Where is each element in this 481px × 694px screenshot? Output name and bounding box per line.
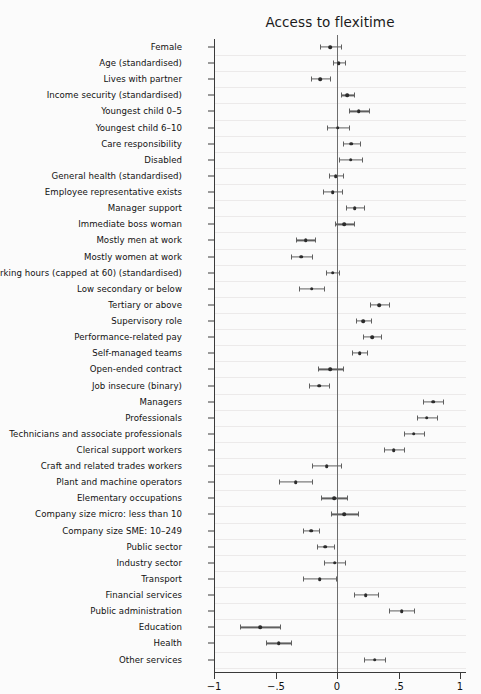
confidence-interval-cap [356,319,357,324]
confidence-interval-cap [385,657,386,662]
point-estimate-marker [309,529,313,533]
x-axis-tick [460,673,461,679]
grid-line [214,474,466,475]
grid-line [214,458,466,459]
confidence-interval-cap [363,335,364,340]
category-label: Financial services [105,590,182,600]
category-label: Age (standardised) [99,58,182,68]
confidence-interval-cap [317,544,318,549]
confidence-interval-cap [352,351,353,356]
category-label: Education [139,622,182,632]
confidence-interval-cap [319,528,320,533]
grid-line [214,329,466,330]
x-axis-tick [214,673,215,679]
confidence-interval-cap [341,93,342,98]
grid-line [214,490,466,491]
category-label: Employee representative exists [45,187,182,197]
y-axis-tick [208,63,214,64]
category-label: Public administration [90,606,182,616]
grid-line [214,249,466,250]
point-estimate-marker [362,319,366,323]
confidence-interval-cap [312,480,313,485]
confidence-interval-cap [437,415,438,420]
y-axis-tick [208,288,214,289]
grid-line [214,506,466,507]
confidence-interval-cap [345,560,346,565]
point-estimate-marker [304,239,308,243]
category-label: Self-managed teams [92,348,182,358]
point-estimate-marker [328,368,332,372]
point-estimate-marker [400,609,404,613]
category-label: Disabled [144,155,182,165]
confidence-interval-cap [345,61,346,66]
point-estimate-marker [317,384,321,388]
point-estimate-marker [334,174,338,178]
category-label: Company size micro: less than 10 [35,509,182,519]
grid-line [214,55,466,56]
confidence-interval-cap [334,544,335,549]
confidence-interval-cap [404,431,405,436]
confidence-interval-cap [240,625,241,630]
confidence-interval-cap [342,190,343,195]
category-label: Job insecure (binary) [92,381,182,391]
point-estimate-marker [337,61,341,65]
grid-line [214,603,466,604]
category-label: Performance-related pay [74,332,182,342]
confidence-interval-cap [326,270,327,275]
category-label: Mostly women at work [84,252,182,262]
category-label: Open-ended contract [90,364,182,374]
y-axis-tick [208,192,214,193]
grid-line [214,71,466,72]
confidence-interval-cap [367,351,368,356]
grid-line [214,652,466,653]
confidence-interval-cap [347,496,348,501]
point-estimate-marker [332,497,336,501]
grid-line [214,361,466,362]
grid-line [214,377,466,378]
y-axis-tick [208,530,214,531]
confidence-interval-cap [339,270,340,275]
confidence-interval-cap [329,173,330,178]
y-axis-tick [208,546,214,547]
confidence-interval-cap [321,496,322,501]
category-label: Industry sector [117,558,182,568]
point-estimate-marker [357,110,361,114]
y-axis-line [214,39,215,672]
category-label: Care responsibility [101,139,182,149]
y-axis-tick [208,143,214,144]
x-axis-tick-label: −1 [207,681,222,692]
confidence-interval-cap [354,593,355,598]
x-axis-tick-label: .5 [394,681,404,692]
point-estimate-marker [349,158,353,162]
grid-line [214,265,466,266]
point-estimate-marker [277,642,281,646]
y-axis-tick [208,208,214,209]
confidence-interval-cap [362,157,363,162]
y-axis-tick [208,240,214,241]
confidence-interval-cap [312,464,313,469]
grid-line [214,635,466,636]
grid-line [214,345,466,346]
category-label: Health [153,638,182,648]
grid-line [214,394,466,395]
point-estimate-marker [331,271,335,275]
grid-line [214,168,466,169]
confidence-interval-cap [381,335,382,340]
category-label: Company size SME: 10–249 [62,526,182,536]
y-axis-tick [208,450,214,451]
confidence-interval-cap [312,254,313,259]
confidence-interval-cap [378,593,379,598]
grid-line [214,523,466,524]
point-estimate-marker [425,416,429,420]
point-estimate-marker [378,303,382,307]
category-label: Lives with partner [103,74,182,84]
point-estimate-marker [328,45,332,49]
y-axis-tick [208,514,214,515]
confidence-interval-cap [291,641,292,646]
y-axis-tick [208,321,214,322]
category-label-column: FemaleAge (standardised)Lives with partn… [0,0,200,694]
point-estimate-marker [370,335,374,339]
point-estimate-marker [333,561,337,565]
grid-line [214,668,466,669]
confidence-interval-cap [299,286,300,291]
